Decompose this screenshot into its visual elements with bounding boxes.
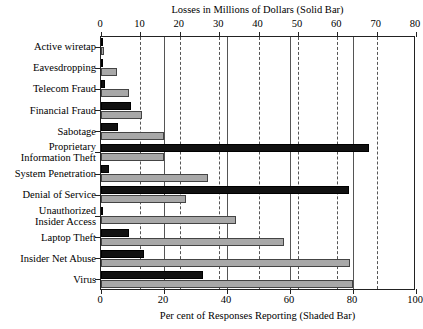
- bar-row: [101, 79, 414, 100]
- bar-rows: [101, 37, 414, 289]
- tickmark-top: [416, 32, 417, 37]
- bottom-axis-title: Per cent of Responses Reporting (Shaded …: [100, 310, 415, 321]
- category-label-line: Active wiretap: [0, 41, 96, 52]
- category-label: Active wiretap: [0, 41, 96, 52]
- category-label-line: Unauthorized: [0, 205, 96, 216]
- category-label: Laptop Theft: [0, 232, 96, 243]
- bottom-axis-tick-labels: 020406080100: [0, 294, 421, 307]
- bottom-tick-label: 20: [158, 294, 169, 305]
- top-tick-label: 40: [252, 18, 263, 29]
- bar-row: [101, 122, 414, 143]
- bar-solid-losses: [101, 38, 103, 46]
- bar-solid-losses: [101, 144, 369, 152]
- top-tick-label: 50: [292, 18, 303, 29]
- bar-solid-losses: [101, 271, 203, 279]
- top-tick-label: 80: [410, 18, 421, 29]
- category-label: Denial of Service: [0, 189, 96, 200]
- bar-row: [101, 164, 414, 185]
- category-label-line: Telecom Fraud: [0, 83, 96, 94]
- top-axis-title: Losses in Millions of Dollars (Solid Bar…: [100, 4, 415, 15]
- category-label: System Penetration: [0, 168, 96, 179]
- bar-solid-losses: [101, 59, 103, 67]
- bar-row: [101, 101, 414, 122]
- bar-shaded-percent: [101, 174, 208, 182]
- bar-shaded-percent: [101, 280, 353, 288]
- category-label-line: Denial of Service: [0, 189, 96, 200]
- bar-row: [101, 206, 414, 227]
- bar-shaded-percent: [101, 111, 142, 119]
- bar-shaded-percent: [101, 153, 164, 161]
- bar-shaded-percent: [101, 259, 350, 267]
- category-label: Eavesdropping: [0, 62, 96, 73]
- bar-solid-losses: [101, 229, 129, 237]
- category-label: Telecom Fraud: [0, 83, 96, 94]
- bottom-tick-label: 80: [347, 294, 358, 305]
- category-label: ProprietaryInformation Theft: [0, 141, 96, 163]
- category-label: UnauthorizedInsider Access: [0, 205, 96, 227]
- bar-solid-losses: [101, 165, 109, 173]
- category-label: Virus: [0, 274, 96, 285]
- bar-shaded-percent: [101, 132, 164, 140]
- bar-row: [101, 249, 414, 270]
- category-label-line: Sabotage: [0, 126, 96, 137]
- category-label: Sabotage: [0, 126, 96, 137]
- bar-shaded-percent: [101, 89, 129, 97]
- category-label-line: Virus: [0, 274, 96, 285]
- bar-shaded-percent: [101, 68, 117, 76]
- top-axis-tick-labels: 01020304050607080: [0, 18, 421, 31]
- category-axis-labels: Active wiretapEavesdroppingTelecom Fraud…: [0, 36, 96, 290]
- bar-row: [101, 270, 414, 291]
- bar-row: [101, 228, 414, 249]
- category-label-line: Insider Net Abuse: [0, 253, 96, 264]
- plot-area: [100, 36, 415, 290]
- bar-solid-losses: [101, 207, 103, 215]
- top-tick-label: 20: [174, 18, 185, 29]
- top-tick-label: 60: [331, 18, 342, 29]
- bar-solid-losses: [101, 250, 144, 258]
- bottom-tick-label: 40: [221, 294, 232, 305]
- category-label: Insider Net Abuse: [0, 253, 96, 264]
- bar-shaded-percent: [101, 216, 236, 224]
- category-label-line: Laptop Theft: [0, 232, 96, 243]
- category-label-line: System Penetration: [0, 168, 96, 179]
- top-tick-label: 10: [134, 18, 145, 29]
- category-label-line: Eavesdropping: [0, 62, 96, 73]
- category-label-line: Information Theft: [0, 152, 96, 163]
- top-tick-label: 30: [213, 18, 224, 29]
- category-label-line: Financial Fraud: [0, 105, 96, 116]
- bar-row: [101, 37, 414, 58]
- bar-row: [101, 143, 414, 164]
- bar-solid-losses: [101, 102, 131, 110]
- category-label: Financial Fraud: [0, 105, 96, 116]
- bottom-tick-label: 60: [284, 294, 295, 305]
- bottom-tick-label: 0: [97, 294, 102, 305]
- bar-solid-losses: [101, 80, 105, 88]
- top-tick-label: 70: [370, 18, 381, 29]
- bar-row: [101, 185, 414, 206]
- bottom-tick-label: 100: [407, 294, 423, 305]
- top-tick-label: 0: [97, 18, 102, 29]
- bar-row: [101, 58, 414, 79]
- bar-shaded-percent: [101, 238, 284, 246]
- bar-solid-losses: [101, 186, 349, 194]
- bar-shaded-percent: [101, 195, 186, 203]
- bar-solid-losses: [101, 123, 118, 131]
- bar-shaded-percent: [101, 47, 104, 55]
- category-label-line: Proprietary: [0, 141, 96, 152]
- category-label-line: Insider Access: [0, 216, 96, 227]
